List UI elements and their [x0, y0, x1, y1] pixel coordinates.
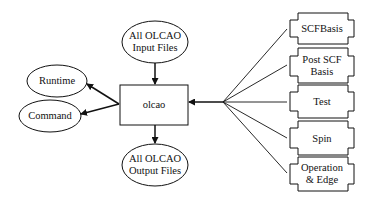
- input-files-label: All OLCAO Input Files: [129, 30, 181, 54]
- input-files-label-line1: All OLCAO: [129, 30, 181, 42]
- runtime-label: Runtime: [39, 75, 75, 87]
- module-scfbasis-label: SCFBasis: [301, 23, 342, 35]
- command-label: Command: [28, 110, 72, 122]
- module-spin-label: Spin: [312, 133, 331, 145]
- module-operation-edge-label-line2: & Edge: [301, 174, 343, 186]
- output-files-label: All OLCAO Output Files: [129, 153, 181, 177]
- edge-olcao-to-runtime: [87, 84, 119, 104]
- module-scfbasis-label-line1: SCFBasis: [301, 23, 342, 35]
- module-postscf-label-line1: Post SCF: [302, 54, 341, 66]
- output-files-label-line2: Output Files: [129, 165, 181, 177]
- output-files-label-line1: All OLCAO: [129, 153, 181, 165]
- module-postscf-label-line2: Basis: [302, 66, 341, 78]
- module-operation-edge-label: Operation & Edge: [301, 162, 343, 186]
- module-fan-lines: [223, 29, 287, 173]
- module-test-label-line1: Test: [313, 96, 330, 108]
- olcao-label: olcao: [143, 99, 166, 111]
- module-spin-label-line1: Spin: [312, 133, 331, 145]
- edge-olcao-to-command: [81, 104, 119, 114]
- module-operation-edge-label-line1: Operation: [301, 162, 343, 174]
- module-postscf-label: Post SCF Basis: [302, 54, 341, 78]
- input-files-label-line2: Input Files: [129, 42, 181, 54]
- module-test-label: Test: [313, 96, 330, 108]
